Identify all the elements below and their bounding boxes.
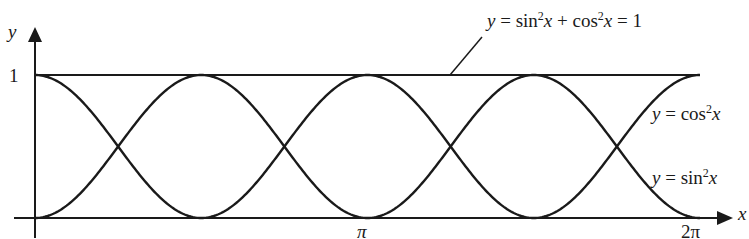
y-axis-arrow-icon: [28, 27, 42, 42]
sin-squared-curve: [35, 75, 700, 218]
y-tick-1: 1: [9, 66, 19, 85]
sin-squared-label: y = sin2x: [652, 167, 717, 187]
cos-squared-curve: [35, 75, 700, 218]
y-axis-label: y: [8, 22, 16, 41]
x-tick-pi: π: [357, 222, 367, 239]
identity-leader-line: [450, 37, 482, 75]
identity-annotation: y = sin2x + cos2x = 1: [487, 10, 642, 30]
x-axis-arrow-icon: [717, 211, 733, 225]
cos-squared-label: y = cos2x: [652, 103, 720, 123]
x-axis-label: x: [738, 204, 746, 223]
x-tick-2pi: 2π: [681, 222, 700, 239]
trig-identity-chart: [0, 0, 749, 239]
